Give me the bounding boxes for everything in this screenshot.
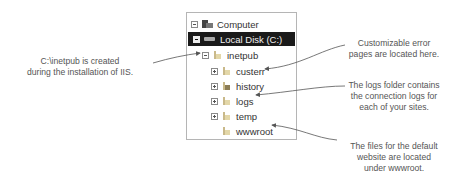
arrow-wwwroot xyxy=(272,125,337,140)
annotation-custerr: Customizable error pages are located her… xyxy=(340,38,448,60)
annotation-line: Customizable error xyxy=(340,38,448,49)
annotation-inetpub: C:\inetpub is created during the install… xyxy=(10,56,150,78)
annotation-line: under wwwroot. xyxy=(338,163,450,174)
arrow-inetpub xyxy=(153,53,200,63)
annotation-line: each of your sites. xyxy=(338,102,450,113)
annotation-line: The logs folder contains xyxy=(338,80,450,91)
annotation-line: C:\inetpub is created xyxy=(10,56,150,67)
arrow-logs xyxy=(256,86,345,95)
annotation-logs: The logs folder contains the connection … xyxy=(338,80,450,113)
annotation-line: during the installation of IIS. xyxy=(10,67,150,78)
annotation-wwwroot: The files for the default website are lo… xyxy=(338,141,450,174)
annotation-line: website are located xyxy=(338,152,450,163)
arrow-custerr xyxy=(265,45,345,69)
annotation-line: pages are located here. xyxy=(340,49,448,60)
annotation-line: The files for the default xyxy=(338,141,450,152)
annotation-line: the connection logs for xyxy=(338,91,450,102)
